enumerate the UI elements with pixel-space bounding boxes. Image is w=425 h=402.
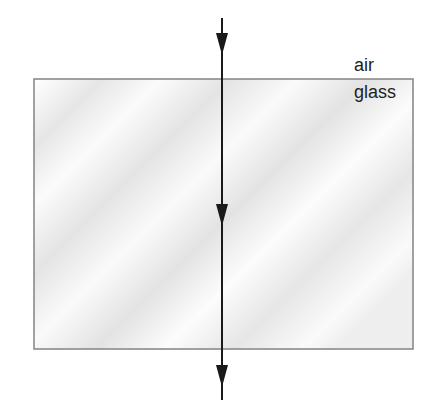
air-label: air <box>354 56 374 74</box>
emergent-arrow-icon <box>216 365 228 387</box>
glass-label: glass <box>354 83 396 101</box>
incident-arrow-icon <box>216 33 228 55</box>
